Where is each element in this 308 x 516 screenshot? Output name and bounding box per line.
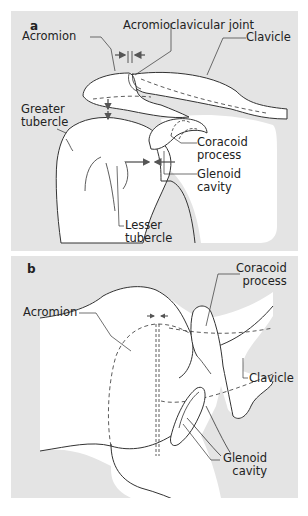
label-acromion: Acromion — [22, 30, 76, 43]
panel-b-shoulder-lateral-view: b Coracoid process Acromion Clavicle Gle… — [11, 256, 298, 498]
label-glenoid-cavity: Glenoid cavity — [197, 168, 241, 194]
label-clavicle: Clavicle — [246, 31, 291, 44]
label-acromion: Acromion — [23, 306, 77, 319]
label-glenoid-cavity: Glenoid cavity — [223, 452, 267, 478]
label-clavicle: Clavicle — [249, 372, 294, 385]
label-lesser-tubercle: Lesser tubercle — [125, 219, 172, 245]
label-coracoid-process: Coracoid process — [236, 262, 287, 288]
panel-a-drawing — [11, 11, 298, 251]
label-greater-tubercle: Greater tubercle — [21, 103, 68, 129]
label-acromioclavicular-joint: Acromioclavicular joint — [123, 19, 254, 32]
panel-label-b: b — [27, 262, 36, 276]
panel-a-shoulder-ap-view: a Acromioclavicular joint Acromion Clavi… — [11, 11, 298, 251]
label-coracoid-process: Coracoid process — [197, 136, 248, 162]
